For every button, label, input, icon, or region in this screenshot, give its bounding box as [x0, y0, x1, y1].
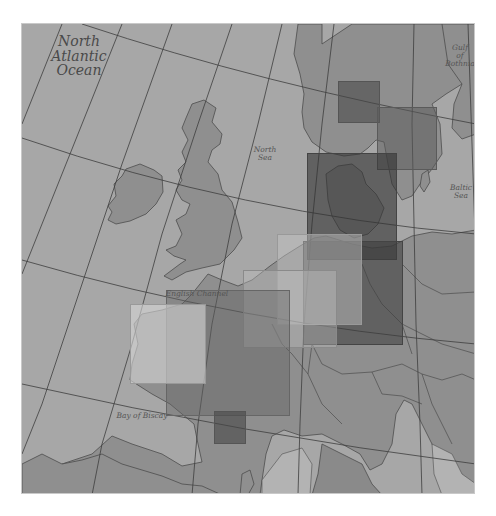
coverage-norway-south[interactable] — [338, 81, 380, 123]
great-britain — [164, 100, 242, 280]
label-line: North — [44, 34, 114, 49]
label-line: Atlantic — [44, 49, 114, 64]
map-frame[interactable]: North Atlantic Ocean North Sea Gulf of B… — [21, 23, 475, 494]
label-north-atlantic-ocean: North Atlantic Ocean — [44, 34, 114, 78]
label-line: Bothnia — [445, 60, 475, 68]
label-english-channel: English Channel — [162, 290, 232, 298]
label-bay-of-biscay: Bay of Biscay — [112, 412, 172, 420]
label-baltic-sea: Baltic Sea — [446, 184, 475, 200]
label-line: Sea — [446, 192, 475, 200]
label-gulf-of-bothnia: Gulf of Bothnia — [445, 44, 475, 68]
label-line: Ocean — [44, 63, 114, 78]
map-base — [22, 24, 475, 494]
label-line: Sea — [250, 154, 280, 162]
coverage-southwest-france[interactable] — [214, 411, 246, 444]
label-north-sea: North Sea — [250, 146, 280, 162]
coverage-brittany[interactable] — [130, 304, 206, 384]
